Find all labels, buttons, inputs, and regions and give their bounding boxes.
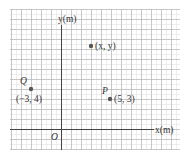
point-general-coords: (x, y) bbox=[95, 41, 116, 52]
coordinate-plane-figure: x(m) y(m) O (x, y) Q (−3, 4) P (5, 3) bbox=[0, 0, 189, 163]
point-general-dot bbox=[89, 44, 93, 48]
point-p-dot bbox=[108, 97, 112, 101]
point-q-label: Q bbox=[20, 76, 27, 86]
point-q-coords: (−3, 4) bbox=[16, 94, 42, 105]
point-p-label: P bbox=[101, 86, 108, 96]
point-p-coords: (5, 3) bbox=[114, 94, 135, 105]
origin-label: O bbox=[51, 132, 58, 142]
x-axis-label: x(m) bbox=[155, 125, 173, 136]
point-q-dot bbox=[29, 87, 33, 91]
y-axis-label: y(m) bbox=[58, 14, 76, 25]
